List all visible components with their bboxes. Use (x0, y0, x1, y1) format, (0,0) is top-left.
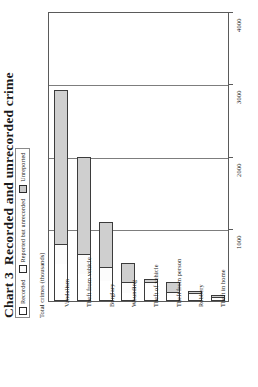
y-axis-title: Total crimes (thousands) (38, 253, 45, 319)
tick-label-1000: 1000 (235, 235, 242, 249)
chart-page: Chart 3 Recorded and unrecorded crime Re… (0, 0, 258, 387)
legend-swatch-unreported (19, 185, 27, 193)
legend-label-reported-but-unrecorded: Reported but unrecorded (19, 199, 26, 263)
legend-item-recorded: Recorded (19, 279, 27, 315)
y-axis-title-wrapper: Total crimes (thousands) (30, 253, 48, 319)
category-label-wounding: Wounding (130, 280, 137, 307)
category-label-burglary: Burglary (108, 284, 115, 307)
legend-item-unreported: Unreported (19, 152, 27, 192)
value-axis: 4000 3000 2000 1000 (229, 0, 258, 310)
tick-label-3000: 3000 (235, 90, 242, 104)
legend-label-recorded: Recorded (19, 279, 26, 304)
bar-segment-reported-but-unrecorded (55, 244, 67, 264)
bars-layer (49, 13, 228, 301)
category-label-theft-in-home: Theft in home (219, 269, 226, 307)
tick-label-2000: 2000 (235, 163, 242, 177)
plot-area (48, 12, 229, 302)
bar-segment-unreported (78, 158, 90, 254)
bar-segment-reported-but-unrecorded (100, 267, 112, 281)
legend-item-reported-but-unrecorded: Reported but unrecorded (19, 199, 27, 274)
tick-line-1000 (229, 229, 233, 230)
tick-line-2000 (229, 157, 233, 158)
bar-segment-unreported (100, 223, 112, 267)
legend-swatch-reported-but-unrecorded (19, 265, 27, 273)
category-label-vandalism: Vandalism (63, 279, 70, 307)
tick-label-4000: 4000 (235, 18, 242, 32)
chart-legend: Recorded Reported but unrecorded Unrepor… (15, 148, 30, 318)
category-axis: VandalismTheft from vehicleBurglaryWound… (48, 303, 229, 387)
bar-segment-unreported (55, 91, 67, 244)
category-label-theft-of-vehicle: Theft of vehicle (152, 264, 159, 307)
tick-line-3000 (229, 84, 233, 85)
legend-swatch-recorded (19, 307, 27, 315)
legend-label-unreported: Unreported (19, 152, 26, 181)
tick-line-4000 (229, 12, 233, 13)
category-label-theft-from-person: Theft from person (175, 259, 182, 307)
category-label-robbery: Robbery (197, 284, 204, 307)
category-label-theft-from-vehicle: Theft from vehicle (85, 257, 92, 307)
bar-vandalism (54, 90, 68, 301)
